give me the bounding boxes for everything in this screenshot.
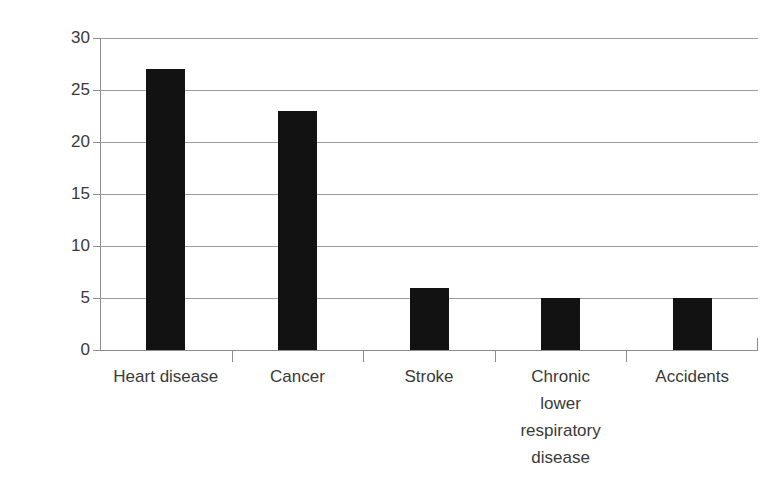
- bar: [541, 298, 580, 350]
- y-tick-label: 5: [50, 288, 90, 308]
- bar: [410, 288, 449, 350]
- y-tick-label: 10: [50, 236, 90, 256]
- gridline: [100, 350, 758, 351]
- y-tick-mark: [93, 350, 101, 351]
- x-axis-category-label: Cancer: [232, 363, 364, 390]
- x-axis-category-label: Chronic lower respiratory disease: [495, 363, 627, 471]
- x-separator-tick: [363, 350, 364, 362]
- y-tick-label: 15: [50, 184, 90, 204]
- y-tick-mark: [93, 142, 101, 143]
- gridline: [100, 194, 758, 195]
- gridline: [100, 246, 758, 247]
- y-tick-mark: [93, 90, 101, 91]
- x-separator-tick: [232, 350, 233, 362]
- x-separator-tick: [495, 350, 496, 362]
- gridline: [100, 90, 758, 91]
- y-tick-label: 25: [50, 80, 90, 100]
- bar: [278, 111, 317, 350]
- y-tick-label: 0: [50, 340, 90, 360]
- y-tick-label: 20: [50, 132, 90, 152]
- x-axis-category-label: Stroke: [363, 363, 495, 390]
- x-axis-category-label: Accidents: [626, 363, 758, 390]
- gridline: [100, 38, 758, 39]
- x-axis-category-label: Heart disease: [100, 363, 232, 390]
- bar: [146, 69, 185, 350]
- y-tick-mark: [93, 298, 101, 299]
- y-tick-mark: [93, 194, 101, 195]
- bar-chart: Percentages 051015202530 Heart diseaseCa…: [0, 0, 780, 500]
- y-tick-mark: [93, 38, 101, 39]
- y-tick-mark: [93, 246, 101, 247]
- x-separator-tick: [626, 350, 627, 362]
- gridline: [100, 142, 758, 143]
- bar: [673, 298, 712, 350]
- plot-area: [100, 38, 758, 350]
- y-tick-label: 30: [50, 28, 90, 48]
